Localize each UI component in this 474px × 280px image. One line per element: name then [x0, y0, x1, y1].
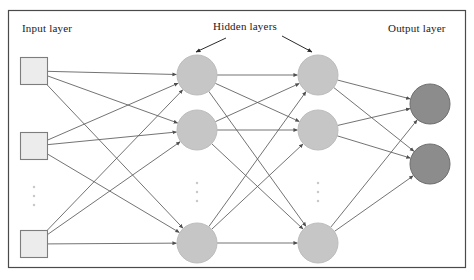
- hidden1-node-2: [177, 110, 217, 150]
- ellipsis-dot: [33, 186, 36, 189]
- hidden-layers-label: Hidden layers: [213, 20, 277, 32]
- input-node-2: [21, 133, 48, 160]
- ellipsis-dot: [196, 182, 199, 185]
- hidden2-node-1: [298, 55, 338, 95]
- output-node-2: [410, 144, 450, 184]
- hidden1-node-1: [177, 55, 217, 95]
- ellipsis-dot: [33, 204, 36, 207]
- ellipsis-dot: [317, 182, 320, 185]
- output-node-1: [410, 84, 450, 124]
- ellipsis-dot: [317, 191, 320, 194]
- ellipsis-dot: [196, 200, 199, 203]
- input-node-1: [21, 58, 48, 85]
- ellipsis-dot: [317, 200, 320, 203]
- input-node-3: [21, 231, 48, 258]
- output-layer-label: Output layer: [388, 22, 446, 34]
- network-svg: [0, 0, 474, 280]
- ellipsis-dot: [33, 195, 36, 198]
- hidden2-node-3: [298, 223, 338, 263]
- hidden1-node-3: [177, 223, 217, 263]
- network-diagram-canvas: Input layer Hidden layers Output layer: [0, 0, 474, 280]
- ellipsis-dot: [196, 191, 199, 194]
- input-layer-label: Input layer: [22, 22, 72, 34]
- diagram-frame: [9, 11, 466, 268]
- hidden2-node-2: [298, 110, 338, 150]
